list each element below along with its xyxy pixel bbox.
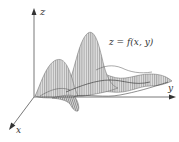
y-axis-label: y bbox=[167, 83, 174, 93]
z-axis bbox=[32, 8, 37, 97]
z-axis-label: z bbox=[39, 6, 46, 17]
x-axis-label: x bbox=[16, 125, 21, 135]
z-axis-arrow-icon bbox=[32, 8, 37, 15]
y-axis-arrow-icon bbox=[169, 95, 176, 100]
surface-plot: z y x z = f(x, y) bbox=[0, 0, 179, 142]
x-axis bbox=[9, 97, 34, 130]
surface-equation-label: z = f(x, y) bbox=[108, 37, 154, 47]
